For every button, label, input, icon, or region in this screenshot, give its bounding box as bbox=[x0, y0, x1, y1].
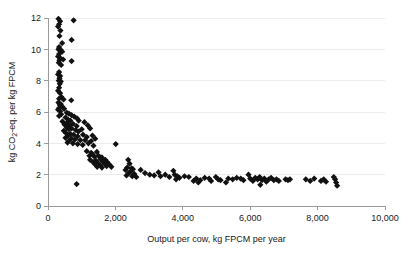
y-tick-label-10: 10 bbox=[31, 45, 41, 55]
x-tick-label-8000: 8,000 bbox=[306, 213, 329, 223]
y-tick-label-2: 2 bbox=[36, 170, 41, 180]
y-tick-label-4: 4 bbox=[36, 139, 41, 149]
data-point bbox=[56, 33, 62, 39]
x-tick-label-4000: 4,000 bbox=[172, 213, 195, 223]
data-point bbox=[74, 181, 80, 187]
data-points-group bbox=[55, 16, 340, 189]
x-tick-label-10000: 10,000 bbox=[371, 213, 399, 223]
tick-marks-group bbox=[44, 18, 385, 210]
data-point bbox=[113, 141, 119, 147]
scatter-chart-figure: 02,0004,0006,0008,00010,000024681012 Out… bbox=[0, 0, 416, 256]
data-point bbox=[68, 97, 74, 103]
data-point bbox=[68, 37, 74, 43]
data-point bbox=[138, 167, 144, 173]
y-tick-label-0: 0 bbox=[36, 201, 41, 211]
x-axis-title: Output per cow, kg FPCM per year bbox=[147, 234, 286, 244]
x-tick-label-2000: 2,000 bbox=[104, 213, 127, 223]
x-tick-label-0: 0 bbox=[45, 213, 50, 223]
data-point bbox=[151, 172, 157, 178]
chart-canvas: 02,0004,0006,0008,00010,000024681012 Out… bbox=[0, 0, 416, 256]
tick-labels-group: 02,0004,0006,0008,00010,000024681012 bbox=[31, 13, 399, 223]
y-tick-label-6: 6 bbox=[36, 107, 41, 117]
data-point bbox=[68, 58, 74, 64]
y-tick-label-8: 8 bbox=[36, 76, 41, 86]
y-axis-title: kg CO2-eq. per kg FPCM bbox=[7, 62, 18, 162]
x-tick-label-6000: 6,000 bbox=[239, 213, 262, 223]
y-tick-label-12: 12 bbox=[31, 13, 41, 23]
data-point bbox=[142, 170, 148, 176]
